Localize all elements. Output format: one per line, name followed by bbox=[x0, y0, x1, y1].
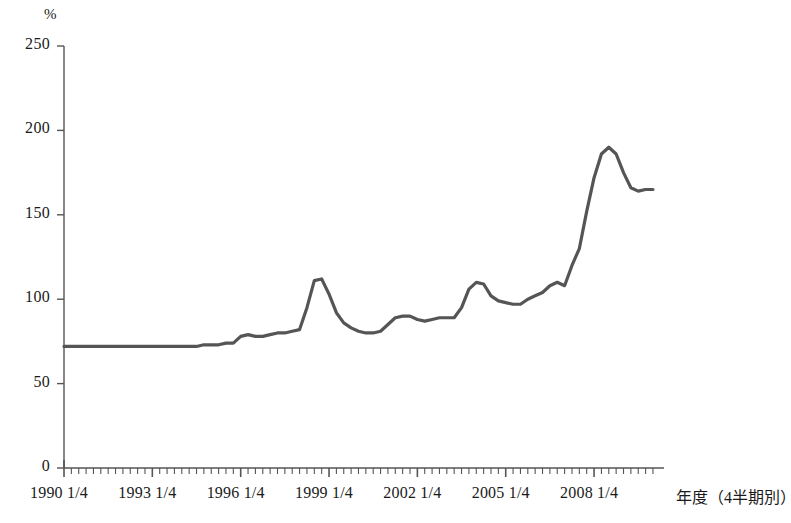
x-tick-label: 2008 1/4 bbox=[560, 484, 618, 502]
x-axis-title: 年度（4半期別） bbox=[676, 484, 791, 508]
series-line bbox=[64, 147, 653, 346]
x-ticks-group bbox=[64, 460, 653, 477]
x-tick-label: 1993 1/4 bbox=[118, 484, 176, 502]
y-tick-label: 0 bbox=[0, 457, 50, 475]
x-tick-label: 2005 1/4 bbox=[472, 484, 530, 502]
y-axis-unit-label: % bbox=[44, 6, 57, 23]
y-tick-label: 50 bbox=[0, 373, 50, 391]
x-tick-label: 1999 1/4 bbox=[295, 484, 353, 502]
x-tick-label: 2002 1/4 bbox=[383, 484, 441, 502]
y-tick-label: 150 bbox=[0, 204, 50, 222]
line-chart-svg bbox=[0, 0, 791, 523]
y-tick-label: 250 bbox=[0, 35, 50, 53]
x-tick-label: 1996 1/4 bbox=[207, 484, 265, 502]
x-tick-label: 1990 1/4 bbox=[30, 484, 88, 502]
y-tick-label: 100 bbox=[0, 288, 50, 306]
chart-container: % 050100150200250 1990 1/41993 1/41996 1… bbox=[0, 0, 791, 523]
y-tick-label: 200 bbox=[0, 119, 50, 137]
y-ticks-group bbox=[57, 46, 64, 468]
data-series-group bbox=[64, 147, 653, 346]
